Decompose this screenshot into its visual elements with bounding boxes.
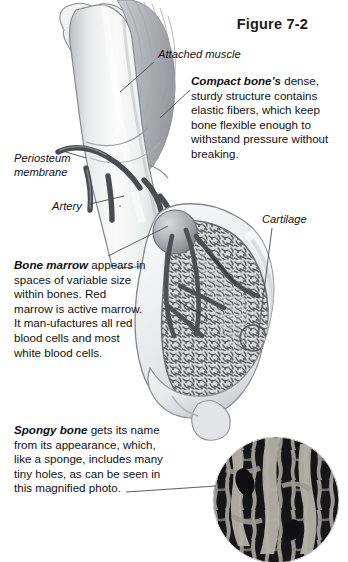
callout-compact-bone-term: Compact bone’s	[191, 74, 281, 87]
callout-spongy-bone: Spongy bone gets its name from its appea…	[14, 423, 174, 496]
figure-illustration: Figure 7-2 Attached muscle Periosteum me…	[0, 0, 348, 562]
label-periosteum-line1: Periosteum	[14, 152, 71, 166]
femur-distal-head	[135, 204, 275, 441]
figure-title: Figure 7-2	[237, 16, 308, 32]
label-periosteum-membrane: Periosteum membrane	[14, 152, 71, 179]
callout-compact-bone: Compact bone’s dense, sturdy structure c…	[191, 74, 343, 162]
label-artery: Artery	[52, 200, 82, 214]
label-cartilage: Cartilage	[262, 213, 307, 227]
callout-bone-marrow-body: appears in spaces of variable size withi…	[14, 258, 145, 359]
callout-bone-marrow: Bone marrow appears in spaces of variabl…	[14, 258, 146, 360]
label-attached-muscle: Attached muscle	[158, 48, 241, 62]
label-periosteum-line2: membrane	[14, 166, 71, 180]
callout-spongy-bone-term: Spongy bone	[14, 423, 87, 436]
callout-bone-marrow-term: Bone marrow	[14, 258, 88, 271]
magnified-photo-inset	[213, 437, 339, 562]
